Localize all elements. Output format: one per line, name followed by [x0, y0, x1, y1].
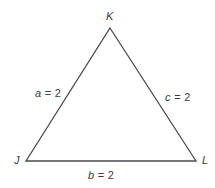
- vertex-label-k: K: [106, 11, 114, 22]
- side-label-c: c = 2: [165, 92, 191, 103]
- vertex-label-l: L: [202, 155, 208, 166]
- vertex-label-j: J: [14, 155, 20, 166]
- side-label-a: a = 2: [35, 88, 61, 99]
- triangle-figure: K J L a = 2 c = 2 b = 2: [0, 0, 215, 188]
- side-a-value: = 2: [41, 87, 61, 99]
- side-c-value: = 2: [171, 91, 191, 103]
- side-b-value: = 2: [94, 169, 114, 181]
- side-label-b: b = 2: [88, 170, 114, 181]
